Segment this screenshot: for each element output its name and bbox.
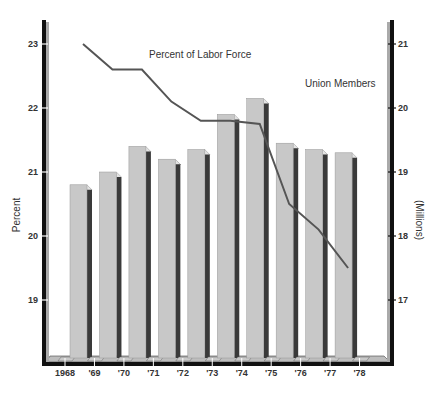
right-tick-label: 20 xyxy=(398,103,408,113)
right-axis-shade xyxy=(387,22,390,362)
x-tick-label: '78 xyxy=(353,368,365,378)
left-axis-shade xyxy=(46,22,49,362)
bar-side xyxy=(87,185,92,358)
x-tick-label: '77 xyxy=(324,368,336,378)
x-tick-label: '74 xyxy=(236,368,248,378)
right-tick-label: 17 xyxy=(398,295,408,305)
bar-side xyxy=(205,150,210,358)
right-axis-title: (Millions) xyxy=(414,200,425,240)
bar xyxy=(158,159,175,358)
x-tick-label: '76 xyxy=(295,368,307,378)
bar-side xyxy=(116,172,121,358)
chart: 192021222317181920211968'69'70'71'72'73'… xyxy=(0,0,432,395)
bar xyxy=(217,114,234,358)
floor-tab xyxy=(353,357,370,361)
left-axis-line xyxy=(42,20,46,366)
bar-side xyxy=(293,143,298,358)
bar xyxy=(70,185,87,358)
right-tick-label: 19 xyxy=(398,167,408,177)
x-tick-label: '73 xyxy=(206,368,218,378)
x-tick-label: '72 xyxy=(177,368,189,378)
left-tick-label: 21 xyxy=(28,167,38,177)
bar xyxy=(99,172,116,358)
bar-side xyxy=(323,150,328,358)
left-axis-title: Percent xyxy=(11,198,22,233)
right-tick-label: 21 xyxy=(398,39,408,49)
bar xyxy=(247,98,264,358)
bar-side xyxy=(234,114,239,358)
right-axis-line xyxy=(390,20,394,366)
bar-side xyxy=(352,153,357,358)
bar xyxy=(306,150,323,358)
x-tick-label: '75 xyxy=(265,368,277,378)
bars xyxy=(58,98,370,361)
x-tick-label: '69 xyxy=(88,368,100,378)
right-tick-label: 18 xyxy=(398,231,408,241)
bar xyxy=(129,146,146,358)
x-tick-label: 1968 xyxy=(55,368,75,378)
left-tick-label: 19 xyxy=(28,295,38,305)
bar-side xyxy=(146,146,151,358)
left-tick-label: 22 xyxy=(28,103,38,113)
x-tick-label: '70 xyxy=(118,368,130,378)
bar xyxy=(188,150,205,358)
left-tick-label: 20 xyxy=(28,231,38,241)
series-label-percent-labor-force: Percent of Labor Force xyxy=(149,49,252,60)
bar-side xyxy=(175,159,180,358)
left-tick-label: 23 xyxy=(28,39,38,49)
series-label-union-members: Union Members xyxy=(305,78,376,89)
x-tick-label: '71 xyxy=(147,368,159,378)
